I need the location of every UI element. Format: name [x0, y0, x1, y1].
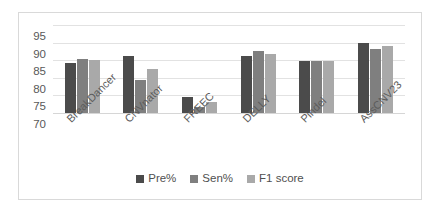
- bar[interactable]: [358, 43, 369, 113]
- y-axis-tick-label: 90: [33, 49, 46, 61]
- y-axis: 707580859095: [19, 25, 51, 113]
- y-axis-tick-label: 75: [33, 102, 46, 114]
- legend-label: F1 score: [259, 173, 304, 185]
- plot-area: [53, 25, 405, 113]
- legend-item[interactable]: F1 score: [247, 173, 304, 185]
- chart-container: 707580859095 BreakDancerCNVnatorFREECDEL…: [18, 12, 422, 200]
- legend-swatch-icon: [190, 175, 198, 183]
- y-axis-tick-label: 80: [33, 84, 46, 96]
- x-axis-category-labels: BreakDancerCNVnatorFREECDELLYPindelAssCN…: [53, 113, 405, 171]
- legend-label: Sen%: [202, 173, 233, 185]
- y-axis-tick-label: 85: [33, 66, 46, 78]
- chart-legend: Pre%Sen%F1 score: [19, 173, 421, 185]
- legend-swatch-icon: [136, 175, 144, 183]
- y-axis-tick-label: 70: [33, 119, 46, 131]
- legend-item[interactable]: Sen%: [190, 173, 233, 185]
- legend-swatch-icon: [247, 175, 255, 183]
- y-axis-tick-label: 95: [33, 31, 46, 43]
- legend-label: Pre%: [148, 173, 176, 185]
- legend-item[interactable]: Pre%: [136, 173, 176, 185]
